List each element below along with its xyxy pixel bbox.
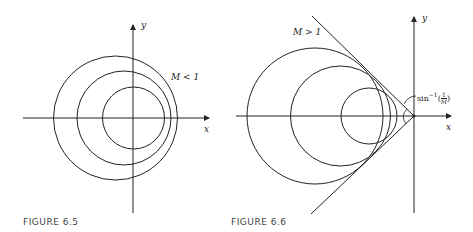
fig66-x-label: x: [446, 122, 451, 132]
fig66-y-label: y: [422, 13, 427, 23]
figure-6-6: [236, 16, 451, 214]
fig66-angle-label: sin−1(1M): [417, 91, 450, 105]
fig65-annotation: M < 1: [171, 72, 199, 82]
fig66-annotation: M > 1: [293, 27, 321, 37]
figure-6-5: [23, 25, 209, 213]
fig65-y-label: y: [141, 20, 146, 30]
fig65-x-label: x: [204, 124, 209, 134]
figures-canvas: [0, 0, 473, 232]
mach-line-lower: [311, 116, 414, 214]
fig65-caption: FIGURE 6.5: [23, 217, 79, 227]
fig66-caption: FIGURE 6.6: [231, 217, 287, 227]
mach-line-upper: [312, 16, 414, 116]
